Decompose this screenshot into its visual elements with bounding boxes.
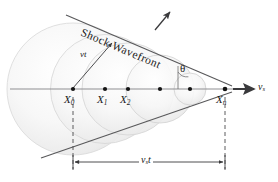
point-label-base: X <box>64 93 71 105</box>
shock-wavefront-diagram: Shock Wavefront vt θ X0 X1 X2 Xn vs vst <box>0 0 278 182</box>
angle-theta-label: θ <box>180 62 185 74</box>
source-dot <box>188 87 192 91</box>
point-label-sub: 0 <box>71 99 75 107</box>
point-label-x2: X2 <box>120 93 130 107</box>
source-dot <box>158 87 162 91</box>
point-label-base: X <box>120 93 127 105</box>
radius-vt-label: vt <box>80 49 87 59</box>
point-label-sub: 1 <box>104 99 108 107</box>
point-label-xn: Xn <box>216 93 226 107</box>
point-label-sub: n <box>223 99 227 107</box>
point-label-x0: X0 <box>64 93 74 107</box>
distance-label: vst <box>139 154 153 165</box>
point-label-x1: X1 <box>97 93 107 107</box>
wavefront-propagation-arrow <box>155 12 170 30</box>
distance-tail: t <box>148 154 151 165</box>
source-dot <box>103 87 107 91</box>
point-label-sub: 2 <box>127 99 131 107</box>
source-dot <box>71 87 75 91</box>
source-dot <box>126 87 130 91</box>
source-dot <box>223 87 228 92</box>
point-label-base: X <box>97 93 104 105</box>
source-speed-sub: s <box>262 85 265 92</box>
source-speed-label: vs <box>258 81 265 92</box>
point-label-base: X <box>216 93 223 105</box>
